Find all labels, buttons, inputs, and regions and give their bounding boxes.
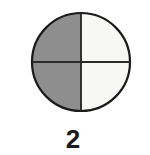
figure-container: 2: [0, 0, 150, 155]
figure-caption: 2: [66, 126, 80, 152]
caption-area: 2: [0, 122, 150, 155]
quadrant-circle-diagram: [0, 0, 150, 122]
